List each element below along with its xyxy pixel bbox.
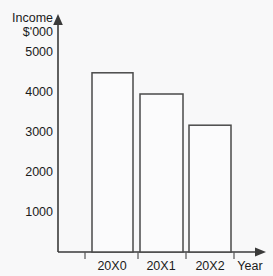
bar-20X0 bbox=[92, 73, 133, 252]
y-axis-unit-label: $'000 bbox=[23, 25, 53, 39]
y-tick-label-1000: 1000 bbox=[25, 205, 53, 219]
bar-20X2 bbox=[189, 125, 231, 252]
y-tick-label-3000: 3000 bbox=[25, 125, 53, 139]
chart-canvas: Income $'000 5000 4000 3000 2000 1000 20… bbox=[0, 0, 273, 276]
y-tick-label-4000: 4000 bbox=[25, 85, 53, 99]
bar-20X1 bbox=[140, 94, 183, 252]
income-bar-chart: Income $'000 5000 4000 3000 2000 1000 20… bbox=[0, 0, 273, 276]
y-tick-label-5000: 5000 bbox=[25, 45, 53, 59]
x-axis-title: Year bbox=[237, 259, 262, 273]
x-axis-arrow-icon bbox=[255, 247, 266, 256]
x-tick-label-20X1: 20X1 bbox=[146, 259, 175, 273]
y-axis-arrow-icon bbox=[53, 14, 63, 25]
x-tick-label-20X0: 20X0 bbox=[97, 259, 126, 273]
y-tick-label-2000: 2000 bbox=[25, 165, 53, 179]
y-axis-title: Income bbox=[12, 11, 53, 25]
x-tick-label-20X2: 20X2 bbox=[195, 259, 224, 273]
